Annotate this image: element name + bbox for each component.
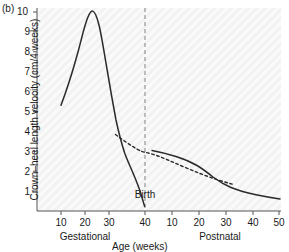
xtick-label-postnatal-40: 40 bbox=[243, 218, 263, 228]
xtick-label-postnatal-30: 30 bbox=[216, 218, 236, 228]
plot-background bbox=[37, 8, 281, 211]
panel-label: (b) bbox=[2, 4, 14, 14]
x-tick-marks bbox=[61, 211, 279, 215]
xtick-label-postnatal-50: 50 bbox=[269, 218, 289, 228]
xtick-label-postnatal-10: 10 bbox=[162, 218, 182, 228]
xtick-label-gestational-30: 30 bbox=[99, 218, 119, 228]
xtick-label-postnatal-20: 20 bbox=[189, 218, 209, 228]
x-axis-title: Age (weeks) bbox=[112, 242, 168, 252]
xtick-label-gestational-20: 20 bbox=[75, 218, 95, 228]
birth-annotation-label: Birth bbox=[129, 190, 161, 200]
xtick-label-gestational-40: 40 bbox=[135, 218, 155, 228]
y-axis-title: Crown–heel length velocity (cm/4 weeks) bbox=[29, 21, 40, 201]
ytick-label-10: 10 bbox=[14, 7, 28, 17]
segment-label-gestational: Gestational bbox=[50, 232, 120, 242]
segment-label-postnatal: Postnatal bbox=[185, 232, 255, 242]
figure-panel-b: (b) 1 2 3 4 5 6 7 8 9 10 10 20 30 40 10 … bbox=[0, 0, 289, 252]
xtick-label-gestational-10: 10 bbox=[51, 218, 71, 228]
chart-canvas bbox=[0, 0, 289, 252]
